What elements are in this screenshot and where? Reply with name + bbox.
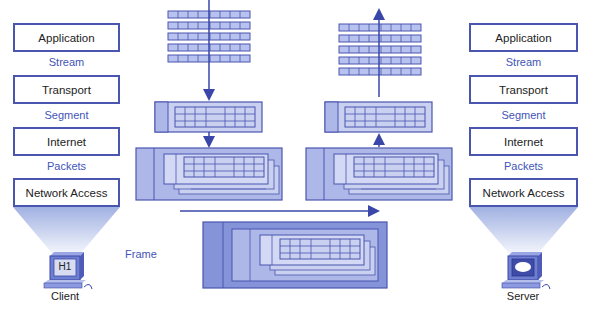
client-screen-label: H1 [54,261,76,272]
server-computer-icon [502,252,550,289]
server-stream-data [339,24,421,75]
client-label: Client [40,290,90,302]
encapsulation-diagram [0,0,591,309]
frame-graphic [203,222,387,288]
server-label: Server [498,290,548,302]
frame-label: Frame [125,248,157,260]
